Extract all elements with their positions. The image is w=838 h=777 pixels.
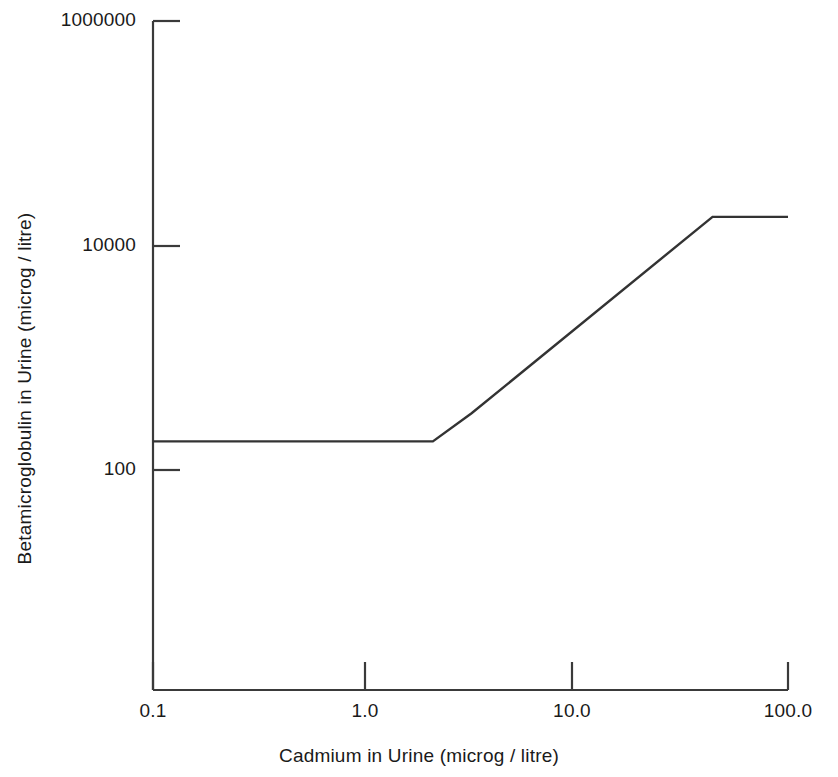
data-series-line — [153, 217, 788, 442]
y-axis-title: Betamicroglobulin in Urine (microg / lit… — [8, 0, 42, 777]
x-axis-title: Cadmium in Urine (microg / litre) — [0, 745, 838, 767]
x-axis-ticks — [153, 662, 788, 690]
x-tick-label-0-1: 0.1 — [113, 700, 193, 722]
x-tick-label-10-0: 10.0 — [532, 700, 612, 722]
plot-area — [0, 0, 838, 777]
y-axis-title-wrapper: Betamicroglobulin in Urine (microg / lit… — [8, 0, 42, 777]
y-axis-ticks — [153, 21, 180, 470]
x-tick-label-100-0: 100.0 — [748, 700, 828, 722]
chart-figure: 1000000 10000 100 0.1 1.0 10.0 100.0 Cad… — [0, 0, 838, 777]
x-tick-label-1-0: 1.0 — [325, 700, 405, 722]
